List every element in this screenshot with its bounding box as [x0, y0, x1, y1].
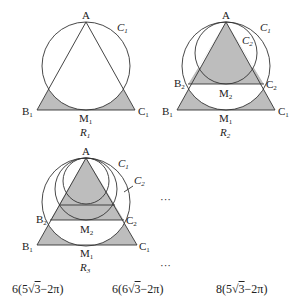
sqrt-symbol: √ [128, 282, 135, 296]
label-circle-c2: C2 [134, 174, 145, 188]
label-c2-point: C2 [266, 78, 277, 92]
label-b1: B1 [22, 105, 33, 119]
label-circle-c1: C1 [118, 157, 129, 171]
answer-choice-3[interactable]: 8(5√3−2π) [216, 282, 267, 297]
caption-r1: R1 [79, 126, 90, 140]
answer-choices: 6(5√3−2π) 6(6√3−2π) 8(5√3−2π) [0, 282, 296, 297]
caption-r2: R2 [219, 126, 231, 140]
sqrt-symbol: √ [232, 282, 239, 296]
label-m1: M1 [219, 112, 233, 126]
label-c1-point: C1 [138, 105, 149, 119]
circle-c1 [42, 22, 130, 110]
ellipsis-below: ··· [160, 259, 171, 271]
label-circle-c1: C1 [260, 21, 271, 35]
label-a: A [82, 145, 90, 157]
label-b1: B1 [162, 105, 173, 119]
figure-r3: A B1 C1 B2 C2 M2 M1 C1 C2 R3 [22, 145, 150, 275]
label-m1: M1 [80, 247, 94, 261]
label-b1: B1 [22, 240, 33, 254]
answer-choice-1[interactable]: 6(5√3−2π) [12, 282, 63, 297]
label-m2: M2 [219, 87, 233, 101]
geometry-diagram: A B1 C1 M1 C1 R1 A B1 C1 B2 C2 M2 M1 C1 … [0, 0, 296, 297]
label-a: A [82, 9, 90, 21]
figure-r2: A B1 C1 B2 C2 M2 M1 C1 C2 R2 [162, 9, 289, 140]
label-b2: B2 [36, 213, 47, 227]
label-a: A [222, 9, 230, 21]
label-c1-point: C1 [139, 240, 150, 254]
answer-choice-2[interactable]: 6(6√3−2π) [112, 282, 163, 297]
sqrt-symbol: √ [28, 282, 35, 296]
label-m2: M2 [80, 223, 94, 237]
label-c2-point: C2 [126, 214, 137, 228]
label-c1-point: C1 [278, 105, 289, 119]
figure-r1: A B1 C1 M1 C1 R1 [22, 9, 149, 140]
ellipsis-right: ··· [160, 193, 171, 205]
caption-r3: R3 [79, 261, 91, 275]
label-circle-c1: C1 [117, 21, 128, 35]
label-m1: M1 [79, 112, 93, 126]
